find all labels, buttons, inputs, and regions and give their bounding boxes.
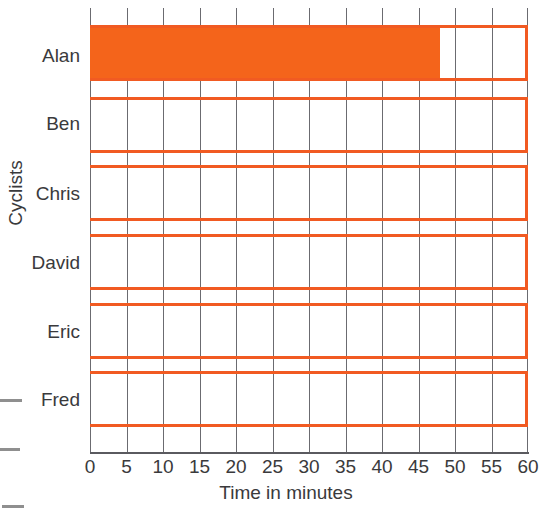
bar-row-david [90, 234, 528, 290]
x-tick-label-5: 5 [107, 456, 147, 478]
y-tick-label-fred: Fred [0, 389, 86, 411]
bar-chart-screenshot: Cyclists AlanBenChrisDavidEricFred 05101… [0, 0, 548, 514]
x-tick-label-20: 20 [216, 456, 256, 478]
bar-fill-alan [90, 28, 440, 78]
page-edge-mark [0, 448, 20, 451]
x-tick-label-0: 0 [70, 456, 110, 478]
x-tick-label-45: 45 [399, 456, 439, 478]
y-tick-label-eric: Eric [0, 321, 86, 343]
bar-row-chris [90, 165, 528, 221]
x-tick-label-55: 55 [472, 456, 512, 478]
x-tick-label-50: 50 [435, 456, 475, 478]
x-axis-line [90, 452, 529, 454]
page-edge-mark [2, 505, 24, 508]
y-tick-label-chris: Chris [0, 183, 86, 205]
x-tick-label-35: 35 [326, 456, 366, 478]
x-tick-label-60: 60 [508, 456, 548, 478]
x-tick-label-10: 10 [143, 456, 183, 478]
bar-row-alan [90, 25, 528, 81]
x-tick-label-15: 15 [180, 456, 220, 478]
x-tick-label-25: 25 [253, 456, 293, 478]
bar-row-ben [90, 97, 528, 153]
y-tick-label-david: David [0, 252, 86, 274]
x-tick-label-40: 40 [362, 456, 402, 478]
bar-row-eric [90, 303, 528, 359]
plot-area [90, 8, 528, 452]
bar-row-fred [90, 371, 528, 427]
x-tick-label-30: 30 [289, 456, 329, 478]
y-tick-label-ben: Ben [0, 113, 86, 135]
y-tick-label-alan: Alan [0, 45, 86, 67]
x-axis-title: Time in minutes [0, 482, 548, 504]
